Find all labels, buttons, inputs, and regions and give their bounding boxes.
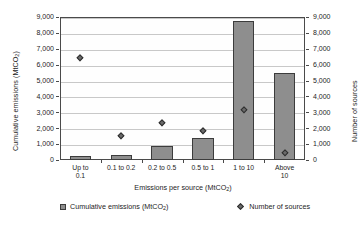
y-axis-left-title-tail: ) <box>11 51 20 53</box>
y-tick-mark-left <box>56 65 59 66</box>
legend-label: Number of sources <box>249 202 310 211</box>
y-tick-mark-right <box>306 144 309 145</box>
y-tick-label-right: 2,000 <box>313 125 347 132</box>
y-tick-mark-left <box>56 81 59 82</box>
y-tick-mark-left <box>56 128 59 129</box>
bar <box>274 73 295 160</box>
y-tick-label-right: 4,000 <box>313 93 347 100</box>
y-axis-right-title: Number of sources <box>350 80 359 142</box>
y-tick-mark-left <box>56 49 59 50</box>
y-tick-label-left: 5,000 <box>20 77 54 84</box>
x-tick-mark <box>183 160 184 163</box>
gridline <box>61 66 304 67</box>
bar <box>233 21 254 160</box>
y-tick-label-right: 3,000 <box>313 109 347 116</box>
y-tick-label-left: 0 <box>20 156 54 163</box>
y-tick-label-left: 6,000 <box>20 61 54 68</box>
y-tick-label-left: 8,000 <box>20 29 54 36</box>
x-tick-mark <box>264 160 265 163</box>
y-axis-left-title: Cumulative emissions (MtCO2) <box>11 51 20 151</box>
chart-legend: Cumulative emissions (MtCO2) Number of s… <box>60 202 310 211</box>
y-tick-label-right: 6,000 <box>313 61 347 68</box>
gridline <box>61 18 304 19</box>
x-axis-title-tail: ) <box>229 183 231 192</box>
x-axis-title: Emissions per source (MtCO2) <box>60 183 306 192</box>
x-tick-mark <box>101 160 102 163</box>
x-tick-mark <box>142 160 143 163</box>
legend-item-cumulative-emissions[interactable]: Cumulative emissions (MtCO2) <box>60 202 168 211</box>
y-tick-mark-left <box>56 96 59 97</box>
y-tick-label-right: 1,000 <box>313 140 347 147</box>
y-tick-mark-right <box>306 112 309 113</box>
y-tick-label-right: 5,000 <box>313 77 347 84</box>
y-tick-mark-left <box>56 144 59 145</box>
y-tick-mark-right <box>306 128 309 129</box>
y-tick-label-left: 4,000 <box>20 93 54 100</box>
chart-figure: Cumulative emissions (MtCO2) Number of s… <box>0 0 360 225</box>
bar <box>111 155 132 160</box>
y-tick-label-left: 3,000 <box>20 109 54 116</box>
gridline <box>61 145 304 146</box>
y-tick-label-right: 0 <box>313 156 347 163</box>
x-category-label: Above 10 <box>260 164 309 181</box>
diamond-marker-icon <box>237 203 244 210</box>
y-tick-mark-right <box>306 49 309 50</box>
y-tick-mark-left <box>56 17 59 18</box>
x-axis-title-text: Emissions per source (MtCO <box>134 183 226 192</box>
y-tick-label-left: 9,000 <box>20 13 54 20</box>
y-tick-label-left: 2,000 <box>20 125 54 132</box>
y-tick-mark-right <box>306 17 309 18</box>
y-tick-label-right: 9,000 <box>313 13 347 20</box>
gridline <box>61 113 304 114</box>
y-tick-mark-right <box>306 81 309 82</box>
bar <box>70 156 91 160</box>
legend-label: Cumulative emissions (MtCO2) <box>70 202 168 211</box>
y-tick-label-left: 7,000 <box>20 45 54 52</box>
y-tick-mark-left <box>56 112 59 113</box>
legend-label-tail: ) <box>166 202 168 211</box>
plot-area <box>60 17 305 160</box>
y-tick-mark-right <box>306 65 309 66</box>
gridline <box>61 97 304 98</box>
y-tick-mark-left <box>56 160 59 161</box>
y-tick-mark-left <box>56 33 59 34</box>
bar <box>151 146 172 160</box>
y-tick-label-right: 8,000 <box>313 29 347 36</box>
legend-label-text: Cumulative emissions (MtCO <box>70 202 163 211</box>
legend-item-number-of-sources[interactable]: Number of sources <box>237 202 310 211</box>
gridline <box>61 82 304 83</box>
bar <box>192 138 213 160</box>
x-tick-mark <box>223 160 224 163</box>
y-tick-mark-right <box>306 96 309 97</box>
gridline <box>61 34 304 35</box>
gridline <box>61 129 304 130</box>
y-tick-label-right: 7,000 <box>313 45 347 52</box>
gridline <box>61 50 304 51</box>
y-axis-left-title-text: Cumulative emissions (MtCO <box>11 57 20 151</box>
square-marker-icon <box>60 204 66 210</box>
y-tick-label-left: 1,000 <box>20 140 54 147</box>
y-axis-left-title-subscript: 2 <box>14 54 20 57</box>
y-tick-mark-right <box>306 33 309 34</box>
y-tick-mark-right <box>306 160 309 161</box>
